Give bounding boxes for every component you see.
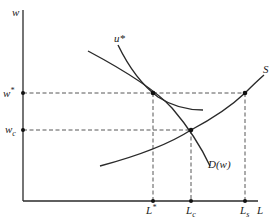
L-s-axis-point — [243, 199, 247, 203]
w-star-label: w* — [3, 86, 14, 99]
w-c-axis-point — [21, 128, 25, 132]
labor-market-diagram: w L w* wc L* Lc Ls u* D(w) S — [0, 0, 274, 218]
x-axis-label: L — [256, 204, 263, 216]
demand-curve — [88, 51, 210, 166]
L-c-label: Lc — [185, 204, 196, 218]
L-s-label: Ls — [239, 204, 249, 218]
L-star-label: L* — [145, 203, 156, 216]
demand-curve-label: D(w) — [207, 158, 231, 171]
L-c-axis-point — [189, 199, 193, 203]
supply-at-w-star-point — [243, 91, 248, 96]
w-star-axis-point — [21, 91, 25, 95]
u-star-label: u* — [114, 32, 126, 44]
optimum-point — [151, 91, 156, 96]
y-axis-label: w — [12, 6, 20, 18]
supply-curve-label: S — [263, 63, 269, 75]
u-star-curve — [118, 45, 203, 110]
competitive-equilibrium-point — [189, 128, 194, 133]
w-c-label: wc — [5, 123, 16, 138]
